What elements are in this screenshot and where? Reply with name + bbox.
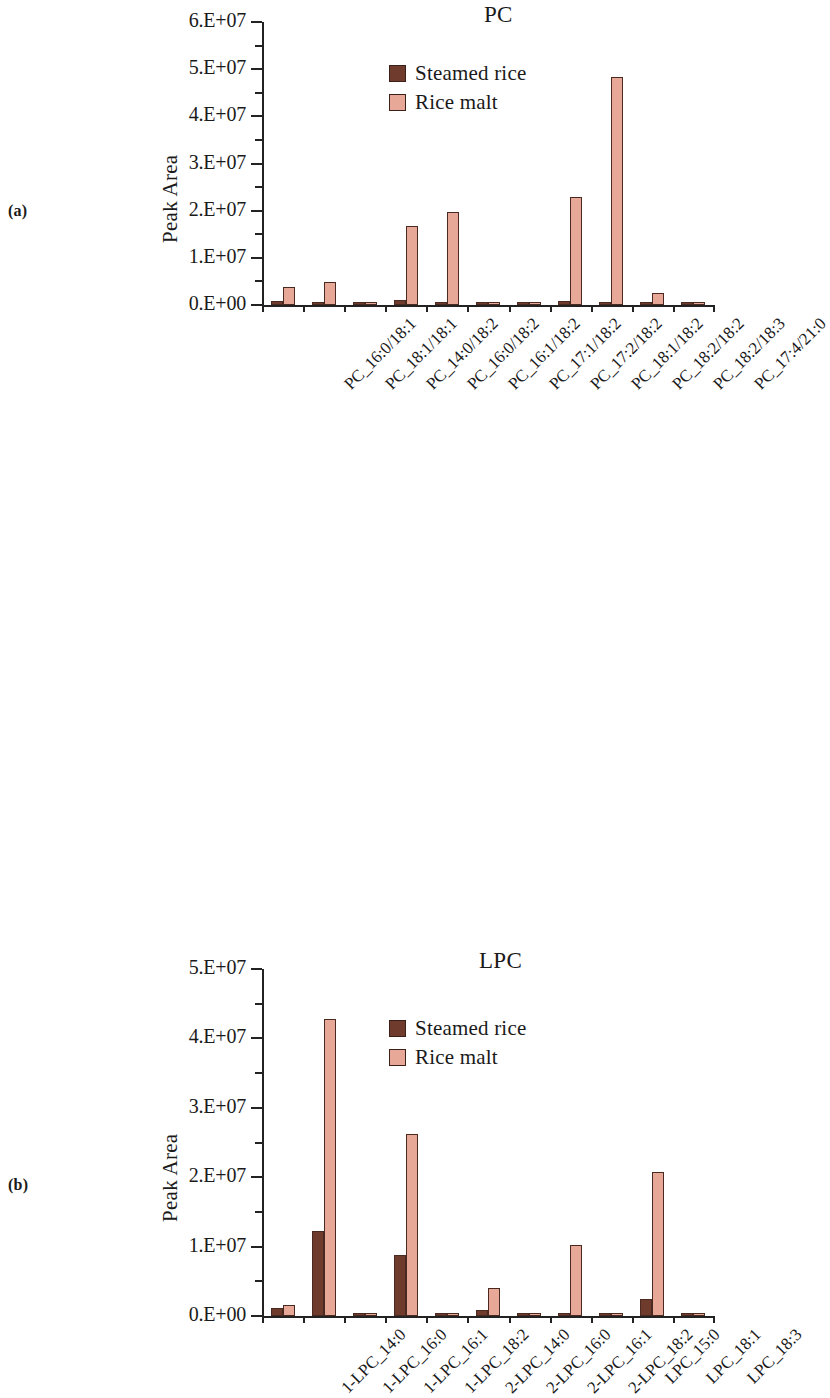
- bar-rice-malt: [324, 282, 336, 305]
- bar-steamed-rice: [476, 1310, 488, 1316]
- y-tick-label: 2.E+07: [189, 198, 246, 221]
- y-tick-minor: [255, 1072, 262, 1074]
- bar-rice-malt: [488, 302, 500, 305]
- y-tick-minor: [255, 1280, 262, 1282]
- y-tick-minor: [255, 280, 262, 282]
- y-tick-label: 5.E+07: [189, 956, 246, 979]
- bar-steamed-rice: [517, 1313, 529, 1316]
- bar-rice-malt: [611, 1313, 623, 1316]
- bar-rice-malt: [447, 1313, 459, 1316]
- x-tick: [344, 1316, 346, 1323]
- bar-steamed-rice: [394, 1255, 406, 1316]
- bar-rice-malt: [488, 1288, 500, 1316]
- y-tick-major: [251, 115, 262, 117]
- y-tick-label: 6.E+07: [189, 9, 246, 32]
- y-tick-major: [251, 68, 262, 70]
- bar-rice-malt: [365, 1313, 377, 1316]
- bar-steamed-rice: [394, 300, 406, 305]
- y-tick-minor: [255, 92, 262, 94]
- y-tick-label: 0.E+00: [189, 1303, 246, 1326]
- bar-steamed-rice: [271, 1308, 283, 1316]
- bar-steamed-rice: [599, 1313, 611, 1316]
- x-tick: [467, 305, 469, 312]
- x-tick: [509, 305, 511, 312]
- y-tick-minor: [255, 1211, 262, 1213]
- x-tick: [550, 305, 552, 312]
- x-tick: [262, 1316, 264, 1323]
- x-tick: [385, 1316, 387, 1323]
- x-tick: [550, 1316, 552, 1323]
- bar-rice-malt: [283, 1305, 295, 1316]
- bar-rice-malt: [693, 1313, 705, 1316]
- x-tick: [385, 305, 387, 312]
- bar-rice-malt: [365, 302, 377, 305]
- y-tick-label: 4.E+07: [189, 1025, 246, 1048]
- bar-steamed-rice: [435, 1313, 447, 1316]
- bar-rice-malt: [611, 77, 623, 305]
- bar-rice-malt: [529, 302, 541, 305]
- panel-a-label: (a): [8, 202, 27, 220]
- bar-rice-malt: [406, 226, 418, 305]
- y-tick-major: [251, 163, 262, 165]
- y-tick-major: [251, 1107, 262, 1109]
- bar-steamed-rice: [681, 302, 693, 305]
- y-tick-major: [251, 1315, 262, 1317]
- panel-a-y-axis-title: Peak Area: [158, 155, 183, 243]
- y-tick-label: 1.E+07: [189, 1234, 246, 1257]
- x-tick: [426, 305, 428, 312]
- panel-a: (a) Peak Area PC Steamed rice Rice malt …: [0, 0, 743, 440]
- bar-rice-malt: [693, 302, 705, 305]
- bar-steamed-rice: [312, 1231, 324, 1316]
- bar-rice-malt: [283, 287, 295, 305]
- x-tick: [509, 1316, 511, 1323]
- panel-b-y-axis: [262, 969, 264, 1316]
- bar-steamed-rice: [312, 302, 324, 305]
- y-tick-label: 5.E+07: [189, 56, 246, 79]
- x-tick: [303, 1316, 305, 1323]
- bar-steamed-rice: [558, 1313, 570, 1316]
- y-tick-major: [251, 968, 262, 970]
- bar-steamed-rice: [353, 1313, 365, 1316]
- y-tick-major: [251, 21, 262, 23]
- y-tick-label: 3.E+07: [189, 151, 246, 174]
- bar-steamed-rice: [640, 302, 652, 305]
- y-tick-label: 0.E+00: [189, 292, 246, 315]
- x-tick: [632, 305, 634, 312]
- x-tick: [426, 1316, 428, 1323]
- bar-rice-malt: [570, 197, 582, 305]
- y-tick-major: [251, 257, 262, 259]
- x-tick: [262, 305, 264, 312]
- bar-rice-malt: [406, 1134, 418, 1316]
- panel-b: (b) Peak Area LPC Steamed rice Rice malt…: [0, 470, 743, 937]
- x-tick: [344, 305, 346, 312]
- y-tick-label: 1.E+07: [189, 245, 246, 268]
- x-tick: [591, 305, 593, 312]
- x-tick: [673, 1316, 675, 1323]
- y-tick-minor: [255, 1003, 262, 1005]
- y-tick-label: 3.E+07: [189, 1095, 246, 1118]
- bar-rice-malt: [570, 1245, 582, 1316]
- x-tick: [673, 305, 675, 312]
- bar-steamed-rice: [353, 302, 365, 305]
- bar-rice-malt: [447, 212, 459, 305]
- bar-rice-malt: [652, 293, 664, 305]
- bar-steamed-rice: [476, 302, 488, 305]
- x-tick: [713, 305, 715, 312]
- bar-rice-malt: [324, 1019, 336, 1316]
- panel-b-label: (b): [8, 1176, 28, 1194]
- bar-steamed-rice: [681, 1313, 693, 1316]
- panel-a-x-axis: [262, 305, 714, 307]
- x-tick: [303, 305, 305, 312]
- bar-rice-malt: [652, 1172, 664, 1316]
- bar-steamed-rice: [558, 301, 570, 305]
- bar-steamed-rice: [640, 1299, 652, 1316]
- y-tick-major: [251, 1176, 262, 1178]
- panel-b-plot-area: 0.E+001.E+072.E+073.E+074.E+075.E+07: [262, 969, 714, 1316]
- panel-a-y-axis: [262, 22, 264, 305]
- y-tick-major: [251, 1246, 262, 1248]
- y-tick-minor: [255, 45, 262, 47]
- y-tick-minor: [255, 233, 262, 235]
- x-tick: [591, 1316, 593, 1323]
- panel-a-plot-area: 0.E+001.E+072.E+073.E+074.E+075.E+076.E+…: [262, 22, 714, 305]
